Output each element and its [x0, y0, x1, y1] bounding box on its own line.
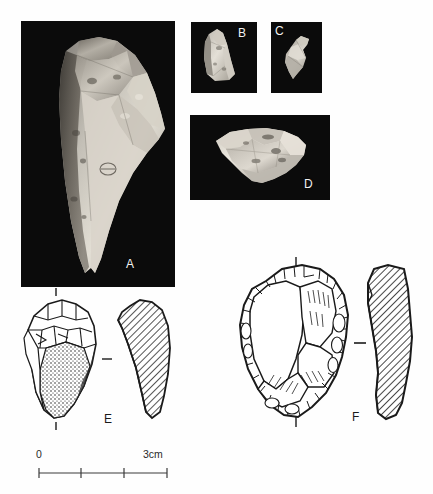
photo-a-image: [21, 21, 175, 287]
scale-bar: 0 3cm: [36, 448, 186, 482]
scale-bar-ruler: [36, 465, 186, 481]
panel-label-e: E: [104, 412, 112, 426]
scale-label-min: 0: [36, 448, 42, 460]
panel-label-d: D: [304, 177, 313, 191]
photo-panel-d: D: [190, 115, 330, 200]
panel-label-b: B: [238, 26, 246, 40]
photo-b-image: [191, 22, 257, 93]
panel-label-f: F: [352, 410, 359, 424]
figure-plate: A B: [0, 0, 433, 494]
scale-label-max: 3cm: [143, 448, 163, 460]
photo-panel-b: B: [191, 22, 257, 93]
drawing-panel-e: E: [18, 286, 198, 434]
photo-panel-c: C: [271, 22, 322, 93]
panel-label-a: A: [126, 257, 134, 271]
drawing-panel-f: F: [208, 255, 430, 437]
panel-label-c: C: [275, 24, 284, 38]
artefact-e-cortex-area: [40, 342, 90, 418]
drawing-f-image: [208, 255, 430, 437]
photo-panel-a: A: [21, 21, 175, 287]
